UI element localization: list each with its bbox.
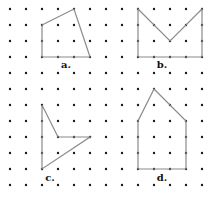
grid-dot bbox=[169, 184, 171, 186]
grid-dot bbox=[9, 24, 11, 26]
grid-dot bbox=[25, 136, 27, 138]
grid-dot bbox=[121, 168, 123, 170]
grid-dot bbox=[137, 104, 139, 106]
grid-dot bbox=[105, 120, 107, 122]
grid-dot bbox=[201, 152, 203, 154]
grid-dot bbox=[185, 72, 187, 74]
grid-dot bbox=[185, 40, 187, 42]
grid-dot bbox=[89, 40, 91, 42]
grid-dot bbox=[185, 88, 187, 90]
grid-dot bbox=[25, 168, 27, 170]
grid-dot bbox=[57, 72, 59, 74]
grid-dot bbox=[121, 72, 123, 74]
grid-dot bbox=[153, 8, 155, 10]
grid-dot bbox=[201, 88, 203, 90]
grid-dot bbox=[201, 72, 203, 74]
grid-dot bbox=[137, 88, 139, 90]
grid-dot bbox=[185, 184, 187, 186]
grid-dot bbox=[185, 8, 187, 10]
grid-dot bbox=[9, 120, 11, 122]
grid-dot bbox=[169, 152, 171, 154]
dot-grid-diagram: a. b. c. d. bbox=[0, 0, 216, 197]
label-a: a. bbox=[61, 59, 71, 70]
grid-dot bbox=[105, 136, 107, 138]
grid-dot bbox=[153, 184, 155, 186]
grid-dot bbox=[89, 104, 91, 106]
grid-dot bbox=[25, 120, 27, 122]
grid-dot bbox=[89, 152, 91, 154]
grid-dot bbox=[121, 24, 123, 26]
grid-dot bbox=[105, 104, 107, 106]
grid-dot bbox=[25, 72, 27, 74]
grid-dot bbox=[9, 8, 11, 10]
grid-dot bbox=[201, 184, 203, 186]
grid-dot bbox=[9, 152, 11, 154]
grid-dot bbox=[9, 184, 11, 186]
grid-dot bbox=[121, 120, 123, 122]
grid-dot bbox=[41, 88, 43, 90]
grid-dot bbox=[105, 24, 107, 26]
grid-dot bbox=[121, 8, 123, 10]
grid-dot bbox=[153, 120, 155, 122]
grid-dot bbox=[73, 184, 75, 186]
label-c: c. bbox=[45, 172, 55, 183]
grid-dot bbox=[137, 72, 139, 74]
polygon-d bbox=[138, 89, 186, 169]
grid-dot bbox=[105, 152, 107, 154]
grid-dot bbox=[73, 120, 75, 122]
grid-dot bbox=[137, 184, 139, 186]
label-b: b. bbox=[157, 59, 167, 70]
grid-dot bbox=[105, 88, 107, 90]
grid-dot bbox=[41, 72, 43, 74]
grid-dot bbox=[9, 136, 11, 138]
grid-dot bbox=[121, 184, 123, 186]
grid-dot bbox=[105, 72, 107, 74]
grid-dot bbox=[89, 120, 91, 122]
grid-dot bbox=[121, 56, 123, 58]
grid-dot bbox=[89, 24, 91, 26]
grid-dot bbox=[105, 40, 107, 42]
grid-dot bbox=[57, 184, 59, 186]
grid-dot bbox=[169, 72, 171, 74]
grid-dot bbox=[41, 184, 43, 186]
grid-dot bbox=[57, 24, 59, 26]
grid-dot bbox=[105, 56, 107, 58]
grid-dot bbox=[73, 152, 75, 154]
grid-dot bbox=[121, 88, 123, 90]
grid-dot bbox=[57, 40, 59, 42]
grid-dot bbox=[89, 168, 91, 170]
grid-dot bbox=[9, 104, 11, 106]
grid-dot bbox=[121, 104, 123, 106]
grid-dot bbox=[89, 72, 91, 74]
grid-dot bbox=[25, 40, 27, 42]
grid-dot bbox=[169, 120, 171, 122]
grid-dot bbox=[57, 120, 59, 122]
grid-dot bbox=[25, 152, 27, 154]
dot-grid bbox=[9, 8, 203, 186]
grid-dot bbox=[57, 104, 59, 106]
grid-dot bbox=[57, 168, 59, 170]
label-d: d. bbox=[157, 172, 167, 183]
grid-dot bbox=[121, 152, 123, 154]
grid-dot bbox=[25, 184, 27, 186]
grid-dot bbox=[9, 56, 11, 58]
grid-dot bbox=[153, 152, 155, 154]
grid-dot bbox=[57, 8, 59, 10]
grid-dot bbox=[57, 88, 59, 90]
grid-dot bbox=[153, 72, 155, 74]
grid-dot bbox=[89, 8, 91, 10]
grid-dot bbox=[73, 88, 75, 90]
polygon-a bbox=[42, 9, 90, 57]
grid-dot bbox=[9, 72, 11, 74]
grid-dot bbox=[73, 40, 75, 42]
grid-dot bbox=[201, 136, 203, 138]
grid-dot bbox=[9, 88, 11, 90]
grid-dot bbox=[121, 136, 123, 138]
grid-dot bbox=[201, 120, 203, 122]
grid-dot bbox=[73, 24, 75, 26]
grid-dot bbox=[73, 72, 75, 74]
grid-dot bbox=[121, 40, 123, 42]
grid-dot bbox=[201, 168, 203, 170]
grid-dot bbox=[41, 8, 43, 10]
grid-dot bbox=[169, 88, 171, 90]
